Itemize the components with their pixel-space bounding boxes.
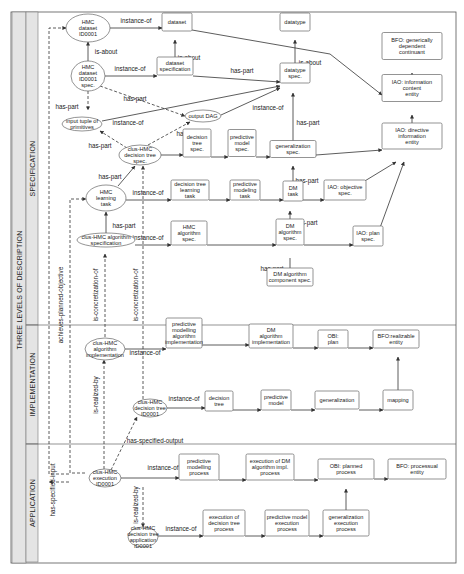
node-label: continuant <box>399 49 425 55</box>
node-label: tree <box>214 401 224 407</box>
node-label: decision tree <box>124 152 156 158</box>
node-label: mapping <box>387 397 408 403</box>
node-label: dataset <box>168 19 187 25</box>
edge-label: instance-of <box>166 525 197 532</box>
node-label: decision tree <box>134 405 166 411</box>
edge-label: is-about <box>95 48 118 55</box>
ontology-diagram: THREE LEVELS OF DESCRIPTION SPECIFICATIO… <box>0 0 464 574</box>
node-label: ID0001 <box>134 543 152 549</box>
edge-label: has-part <box>55 103 78 111</box>
node-pm_spec: predictivemodelspec. <box>228 130 256 157</box>
edge-label: has-part <box>296 119 319 127</box>
node-ds_id: HMCdatasetID0001 <box>66 14 110 42</box>
edge-label: has-specified-output <box>127 437 184 445</box>
node-label: content <box>403 85 422 91</box>
node-app_ell: clus-HMCdecision treeapplicationID0001 <box>127 525 159 550</box>
edge-label: has-part <box>98 173 121 181</box>
node-label: application <box>130 537 157 543</box>
node-dt_spec_ell: clus-HMCdecision treespec. <box>119 145 161 165</box>
node-label: clus-HMC <box>93 340 118 346</box>
node-label: dependent <box>399 43 426 49</box>
node-label: clus-HMC <box>138 399 163 405</box>
node-pm_process: predictivemodellingprocess <box>179 454 219 480</box>
node-label: IAO: information <box>392 79 432 85</box>
edge-label: instance-of <box>169 395 200 402</box>
node-label: model <box>234 140 249 146</box>
edge <box>193 76 280 82</box>
node-label: process <box>336 526 356 532</box>
node-label: implementation <box>252 339 290 345</box>
node-label: spec. <box>81 82 95 88</box>
node-hmc_alg_spec: HMCalgorithmspec. <box>171 221 207 245</box>
node-label: modeling <box>234 187 257 193</box>
node-label: datatype <box>284 19 305 25</box>
node-label: algorithm <box>259 333 282 339</box>
node-label: plan <box>328 339 339 345</box>
node-exec_dm: execution of DMalgorithm impl.process <box>246 454 294 480</box>
node-label: predictive <box>187 458 211 464</box>
node-label: spec. <box>338 190 352 196</box>
node-label: predictive <box>233 181 257 187</box>
lane-label-spec: SPECIFICATION <box>29 141 36 197</box>
edge-label: instance-of <box>253 104 284 111</box>
edge-label: has-part <box>112 222 135 230</box>
node-label: information <box>398 133 426 139</box>
node-label: DM <box>289 185 298 191</box>
node-obi_plan: OBI:plan <box>318 330 348 348</box>
node-label: spec. <box>288 73 302 79</box>
node-bfo_gdc: BFO: genericallydependentcontinuant <box>382 33 442 60</box>
node-dm_alg_impl: DMalgorithmimplementation <box>249 324 293 348</box>
node-label: modelling <box>187 464 211 470</box>
node-label: entity <box>389 339 403 345</box>
node-label: implementation <box>86 352 124 358</box>
node-label: spec. <box>190 146 204 152</box>
node-label: clus-HMC <box>128 146 153 152</box>
node-label: learning <box>180 187 200 193</box>
node-pred_model: predictivemodel <box>261 390 291 410</box>
node-mapping: mapping <box>383 390 413 410</box>
node-label: BFO: generically <box>391 37 433 43</box>
node-label: task <box>101 201 111 207</box>
node-bfo_realizable: BFO:realizableentity <box>373 330 419 348</box>
node-bfo_processual: BFO: processualentity <box>388 459 446 479</box>
edge-label: instance-of <box>113 119 144 126</box>
node-label: tree <box>192 140 202 146</box>
node-label: HMC <box>82 19 95 25</box>
node-alg_impl_ell: clus-HMCalgorithmimplementation <box>85 338 125 360</box>
node-label: DM <box>267 327 276 333</box>
node-iao_plan: IAO: planspec. <box>353 226 383 246</box>
node-label: algorithm <box>278 229 301 235</box>
node-label: execution <box>275 520 299 526</box>
node-label: process <box>260 470 280 476</box>
node-label: DM <box>286 223 295 229</box>
node-label: execution of DM <box>250 458 291 464</box>
node-label: specification <box>91 240 122 246</box>
node-label: ID0001 <box>96 481 114 487</box>
node-label: IAO: directive <box>395 127 429 133</box>
edge-label: instance-of <box>115 65 146 72</box>
node-output_dag: output DAG <box>185 110 221 122</box>
vertical-edge-label: is-realized-by <box>132 485 140 523</box>
node-label: specification <box>160 66 191 72</box>
node-label: BFO: processual <box>396 463 438 469</box>
node-label: ID0001 <box>141 411 159 417</box>
node-label: decision tree <box>174 181 206 187</box>
node-label: dataset <box>79 70 98 76</box>
vertical-edge-label: is-realized-by <box>92 375 100 413</box>
node-pm_task: predictivemodelingtask <box>230 180 260 200</box>
node-label: decision tree <box>208 520 240 526</box>
node-label: DM algorithm <box>273 271 307 277</box>
node-label: HMC <box>82 64 95 70</box>
node-label: spec. <box>361 236 375 242</box>
node-label: BFO:realizable <box>378 333 415 339</box>
edge-label: instance-of <box>130 349 161 356</box>
node-dt_spec: decisiontreespec. <box>183 129 211 157</box>
node-label: modelling <box>172 327 196 333</box>
node-iao_die: IAO: directiveinformationentity <box>382 123 442 149</box>
node-label: entity <box>410 469 424 475</box>
node-iao_ice: IAO: informationcontententity <box>382 75 442 102</box>
edge <box>316 150 382 155</box>
node-decision_tree: decisiontree <box>205 391 233 411</box>
node-label: IAO: objective <box>328 184 363 190</box>
node-label: algorithm <box>177 230 200 236</box>
